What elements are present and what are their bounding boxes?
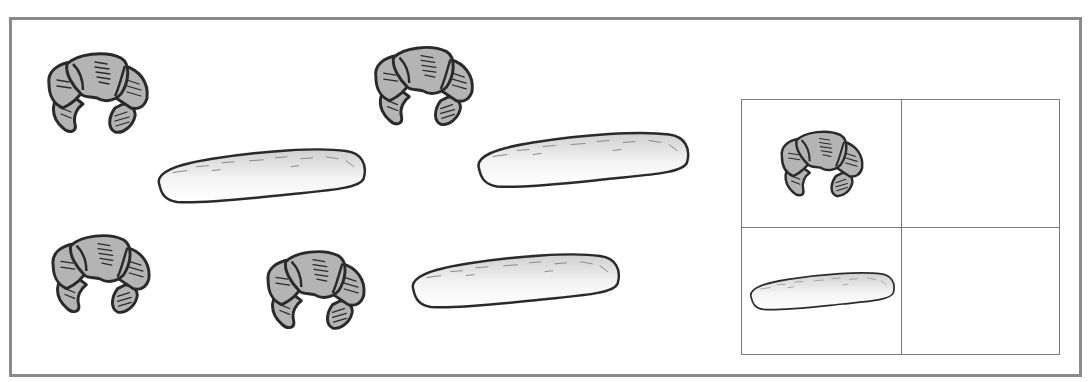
baguette-icon [473, 130, 691, 189]
croissant-icon [47, 232, 155, 314]
baguette-icon [406, 252, 623, 309]
baguette-icon [152, 147, 369, 204]
croissant-icon [43, 50, 153, 134]
grid-cell-croissant-label [777, 128, 867, 198]
grid-cell-baguette-label [747, 270, 896, 312]
grid-cell-croissant-answer[interactable] [902, 100, 1060, 227]
croissant-icon [370, 43, 478, 127]
grid-cell-baguette-answer[interactable] [902, 228, 1060, 354]
croissant-icon [262, 248, 370, 330]
tally-grid [741, 99, 1060, 355]
